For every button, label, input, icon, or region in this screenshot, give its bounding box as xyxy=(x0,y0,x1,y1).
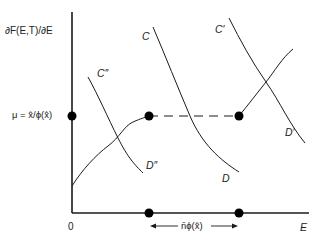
label-c-double-prime: C″ xyxy=(97,68,108,79)
curve-c-main xyxy=(153,27,239,172)
curve-c-double-prime xyxy=(88,77,143,173)
mu-label: μ = x̂/ϕ(x̂) xyxy=(12,110,52,120)
supply-curve-left xyxy=(72,116,149,186)
arrow-left-icon xyxy=(150,224,156,229)
range-label: n̄ϕ(x̂) xyxy=(181,221,203,231)
dot-mu-axis xyxy=(68,112,77,121)
label-d-main: D xyxy=(222,173,230,184)
dot-x-left xyxy=(145,209,154,218)
diagram-canvas xyxy=(0,0,319,241)
dot-mu-left xyxy=(145,112,154,121)
x-axis-label: E xyxy=(300,222,307,233)
label-d-prime: D′ xyxy=(285,127,295,138)
dot-x-right xyxy=(235,209,244,218)
supply-curve-right xyxy=(239,49,293,116)
label-d-double-prime: D″ xyxy=(146,160,157,171)
dot-mu-right xyxy=(235,112,244,121)
y-axis-label: ∂F(E,T)/∂E xyxy=(5,26,53,36)
label-c-prime: C′ xyxy=(215,24,225,35)
label-c-main: C xyxy=(142,31,150,42)
arrow-right-icon xyxy=(232,224,238,229)
origin-label: 0 xyxy=(68,222,74,232)
